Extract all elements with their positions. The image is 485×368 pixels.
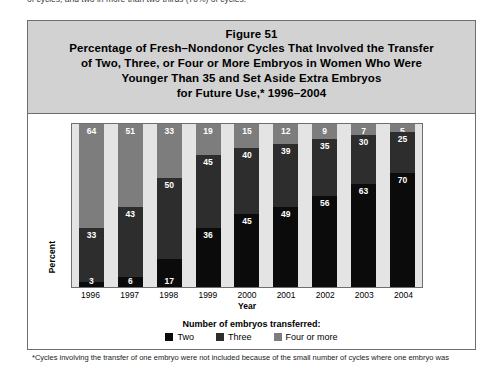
bar-value-label: 9 [312,127,337,136]
bar-value-label: 35 [312,142,337,151]
bar-value-label: 49 [273,210,298,219]
bar-segment-four-1999: 19 [196,124,221,155]
legend-item-three: Three [216,332,252,342]
bar-column-1997: 51436 [118,124,143,287]
x-tick-1997: 1997 [117,290,142,300]
bar-segment-three-1997: 43 [118,207,143,277]
legend-label: Two [177,332,194,342]
bar-value-label: 3 [79,277,104,286]
bar-value-label: 51 [118,127,143,136]
figure-title-line-2: of Two, Three, or Four or More Embryos i… [36,56,467,71]
bar-value-label: 33 [79,231,104,240]
bar-value-label: 64 [79,127,104,136]
legend-item-two: Two [165,332,194,342]
figure-number: Figure 51 [28,27,475,41]
bar-value-label: 36 [196,231,221,240]
bar-segment-four-2000: 15 [234,124,259,148]
bar-value-label: 63 [351,187,376,196]
x-axis-tick-labels: 199619971998199920002001200220032004 [71,290,423,300]
x-tick-2004: 2004 [391,290,416,300]
x-tick-2002: 2002 [313,290,338,300]
legend-swatch-icon [216,333,224,341]
bar-column-2004: 52570 [390,124,415,287]
bar-value-label: 40 [234,151,259,160]
bar-segment-three-2000: 40 [234,148,259,213]
bar-segment-two-2003: 63 [351,184,376,287]
bar-value-label: 45 [196,158,221,167]
bar-segment-four-1996: 64 [79,124,104,228]
bar-column-2003: 73063 [351,124,376,287]
legend-title: Number of embryos transferred: [28,319,475,329]
bar-column-1996: 64333 [79,124,104,287]
bar-column-1998: 335017 [157,124,182,287]
figure-title: Percentage of Fresh–Nondonor Cycles That… [28,41,475,101]
bar-segment-two-1998: 17 [157,259,182,287]
legend-item-four-or-more: Four or more [274,332,338,342]
bar-value-label: 45 [234,217,259,226]
bar-segment-three-2001: 39 [273,144,298,208]
figure-title-line-1: Percentage of Fresh–Nondonor Cycles That… [36,41,467,56]
stacked-bars-layer: 6433351436335017194536154045123949935567… [72,124,422,287]
bar-value-label: 17 [157,277,182,286]
bar-value-label: 15 [234,127,259,136]
bar-segment-three-1999: 45 [196,155,221,228]
x-tick-2001: 2001 [274,290,299,300]
bar-segment-four-2001: 12 [273,124,298,144]
bar-segment-four-1998: 33 [157,124,182,178]
bar-segment-three-1996: 33 [79,228,104,282]
bar-value-label: 19 [196,127,221,136]
legend-swatch-icon [165,333,173,341]
bar-segment-three-2003: 30 [351,135,376,184]
legend-label: Four or more [286,332,338,342]
bar-segment-two-2001: 49 [273,207,298,287]
figure-title-line-4: for Future Use,* 1996–2004 [36,86,467,101]
bar-segment-two-2004: 70 [390,173,415,287]
bar-segment-four-2004: 5 [390,124,415,132]
legend-label: Three [228,332,252,342]
bar-value-label: 7 [351,127,376,136]
plot-area: 6433351436335017194536154045123949935567… [71,123,423,288]
bar-segment-four-2003: 7 [351,124,376,135]
page-body-text-clipped: of cycles, and two in more than two-thir… [27,0,477,4]
bar-segment-four-2002: 9 [312,124,337,139]
bar-segment-four-1997: 51 [118,124,143,207]
bar-value-label: 70 [390,176,415,185]
bar-value-label: 56 [312,199,337,208]
bar-segment-two-2002: 56 [312,196,337,287]
legend-items: TwoThreeFour or more [28,332,475,342]
legend-swatch-icon [274,333,282,341]
bar-column-2002: 93556 [312,124,337,287]
bar-segment-two-1997: 6 [118,277,143,287]
x-tick-2000: 2000 [234,290,259,300]
chart-legend: Number of embryos transferred: TwoThreeF… [28,319,475,342]
bar-segment-two-2000: 45 [234,214,259,287]
figure-footnote: *Cycles involving the transfer of one em… [28,353,473,362]
bar-segment-three-2002: 35 [312,139,337,196]
bar-column-2000: 154045 [234,124,259,287]
figure-container: Figure 51 Percentage of Fresh–Nondonor C… [27,20,476,350]
bar-segment-two-1999: 36 [196,228,221,287]
bar-segment-three-1998: 50 [157,178,182,260]
figure-title-banner: Figure 51 Percentage of Fresh–Nondonor C… [28,21,475,114]
x-tick-1998: 1998 [156,290,181,300]
bar-value-label: 6 [118,277,143,286]
chart-region: Percent 64333514363350171945361540451239… [28,114,475,349]
bar-segment-three-2004: 25 [390,132,415,173]
bar-value-label: 39 [273,147,298,156]
bar-value-label: 30 [351,138,376,147]
bar-value-label: 43 [118,210,143,219]
x-axis-title: Year [71,301,423,311]
y-axis-title: Percent [47,227,57,287]
bar-value-label: 25 [390,135,415,144]
figure-title-line-3: Younger Than 35 and Set Aside Extra Embr… [36,71,467,86]
x-tick-1996: 1996 [78,290,103,300]
bar-column-1999: 194536 [196,124,221,287]
bar-value-label: 50 [157,181,182,190]
bar-value-label: 12 [273,127,298,136]
bar-column-2001: 123949 [273,124,298,287]
x-tick-1999: 1999 [195,290,220,300]
bar-segment-two-1996: 3 [79,282,104,287]
bar-value-label: 33 [157,127,182,136]
x-tick-2003: 2003 [352,290,377,300]
